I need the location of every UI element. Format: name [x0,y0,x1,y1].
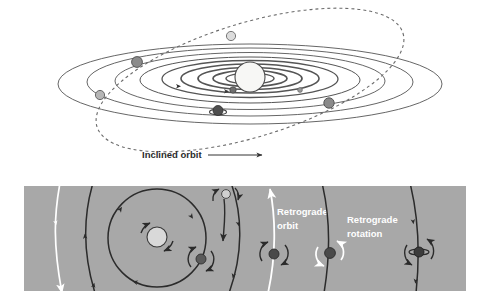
planet-inner-left [230,87,236,93]
sun [235,62,265,92]
orbital-motion-diagram: Inclined orbit [0,0,485,307]
planet-mid-right [324,98,334,108]
planet-outer-left-upper [132,57,143,68]
retrograde-rotation-label-line2: rotation [347,228,383,239]
inclined-orbit-body [226,31,235,40]
inclined-orbit-annotation: Inclined orbit [142,149,262,160]
planet-outer-left-lower [95,90,104,99]
retrograde-rotation-label-line1: Retrograde [347,214,398,225]
central-star [147,227,167,247]
planet-ringed-lower-mid [210,106,227,116]
planet-inner-right-small [298,88,303,93]
retrograde-orbit-label-line1: Retrograde [277,206,328,217]
solar-system-inclined-orbit-panel: Inclined orbit [0,0,485,180]
retrograde-motion-panel: Retrograde orbit Retrograd [0,175,485,307]
inclined-orbit-label: Inclined orbit [142,149,202,160]
retrograde-orbit-label-line2: orbit [277,220,299,231]
